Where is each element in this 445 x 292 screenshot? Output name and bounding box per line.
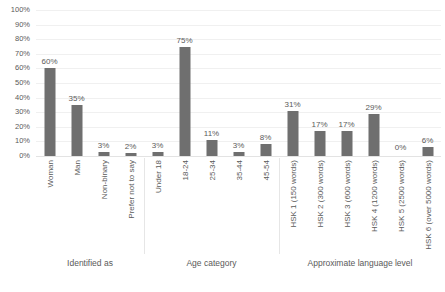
gridline [36, 156, 441, 157]
x-axis-tick-label: Woman [45, 160, 54, 187]
y-axis-tick-label: 40% [15, 94, 30, 102]
y-axis: 0%10%20%30%40%50%60%70%80%90%100% [0, 0, 34, 160]
x-axis-label-slot: 35-44 [226, 158, 252, 250]
group-title: Approximate language level [279, 258, 441, 269]
plot-area: 60%35%3%2%3%75%11%3%8%31%17%17%29%0%6% [36, 10, 441, 156]
bar[interactable] [71, 105, 82, 156]
y-axis-tick-label: 70% [15, 50, 30, 58]
x-axis-label-slot: HSK 6 (over 5000 words) [415, 158, 441, 250]
x-axis-tick-label: 45-54 [261, 160, 270, 180]
group-separator [144, 158, 145, 254]
x-axis-label-slot: HSK 2 (300 words) [307, 158, 333, 250]
x-axis-label-slot: HSK 4 (1200 words) [361, 158, 387, 250]
bar-slot[interactable]: 0% [388, 10, 414, 156]
y-axis-tick-label: 0% [19, 152, 30, 160]
x-axis-labels: WomanManNon-binaryPrefer not to sayUnder… [36, 158, 441, 250]
bar-slot[interactable]: 3% [145, 10, 171, 156]
y-axis-tick-label: 30% [15, 108, 30, 116]
bar-value-label: 17% [338, 120, 354, 129]
bar[interactable] [287, 111, 298, 156]
bar[interactable] [314, 131, 325, 156]
x-axis-tick-label: 35-44 [234, 160, 243, 180]
x-axis-tick-label: HSK 5 (2500 words) [396, 160, 405, 232]
bar-value-label: 75% [176, 36, 192, 45]
bar-slot[interactable]: 2% [118, 10, 144, 156]
bar-value-label: 3% [233, 141, 245, 150]
y-axis-tick-label: 90% [15, 21, 30, 29]
x-axis-label-slot: Man [64, 158, 90, 250]
x-axis-tick-label: Prefer not to say [126, 160, 135, 219]
x-axis-label-slot: 18-24 [172, 158, 198, 250]
bar-slot[interactable]: 11% [199, 10, 225, 156]
x-axis-tick-label: HSK 1 (150 words) [288, 160, 297, 228]
x-axis-label-slot: HSK 5 (2500 words) [388, 158, 414, 250]
y-axis-tick-label: 100% [11, 6, 30, 14]
bar[interactable] [125, 153, 136, 156]
bar[interactable] [98, 152, 109, 156]
bar[interactable] [206, 140, 217, 156]
bar-value-label: 29% [365, 103, 381, 112]
x-axis-tick-label: 18-24 [180, 160, 189, 180]
bar-value-label: 35% [68, 94, 84, 103]
group-title: Identified as [36, 258, 144, 269]
bar-slot[interactable]: 17% [334, 10, 360, 156]
bar-value-label: 3% [98, 141, 110, 150]
bar-value-label: 11% [204, 129, 219, 138]
bar-slot[interactable]: 17% [307, 10, 333, 156]
bar-value-label: 17% [311, 120, 327, 129]
x-axis-label-slot: HSK 1 (150 words) [280, 158, 306, 250]
bar-chart: 0%10%20%30%40%50%60%70%80%90%100% 60%35%… [0, 0, 445, 292]
x-axis-tick-label: HSK 3 (600 words) [342, 160, 351, 228]
y-axis-tick-label: 10% [15, 137, 30, 145]
bar[interactable] [179, 47, 190, 157]
y-axis-tick-label: 80% [15, 35, 30, 43]
bar[interactable] [341, 131, 352, 156]
x-axis-tick-label: HSK 2 (300 words) [315, 160, 324, 228]
x-axis-tick-label: HSK 4 (1200 words) [369, 160, 378, 232]
bar-slot[interactable]: 6% [415, 10, 441, 156]
bar[interactable] [152, 152, 163, 156]
x-axis-label-slot: Under 18 [145, 158, 171, 250]
x-axis-tick-label: HSK 6 (over 5000 words) [423, 160, 432, 250]
bar-value-label: 60% [41, 57, 57, 66]
bar-slot[interactable]: 3% [226, 10, 252, 156]
bar[interactable] [422, 147, 433, 156]
y-axis-tick-label: 50% [15, 79, 30, 87]
x-axis-label-slot: Woman [37, 158, 63, 250]
x-axis-label-slot: Prefer not to say [118, 158, 144, 250]
y-axis-tick-label: 20% [15, 123, 30, 131]
bar-value-label: 31% [284, 100, 300, 109]
bar-slot[interactable]: 60% [37, 10, 63, 156]
bar-slot[interactable]: 75% [172, 10, 198, 156]
bar-value-label: 3% [152, 141, 164, 150]
x-axis-label-slot: Non-binary [91, 158, 117, 250]
x-axis-tick-label: Man [72, 160, 81, 176]
bar[interactable] [44, 68, 55, 156]
x-axis-label-slot: 45-54 [253, 158, 279, 250]
bar-value-label: 6% [422, 136, 434, 145]
bar-value-label: 8% [260, 133, 272, 142]
group-separator [279, 158, 280, 254]
bar-value-label: 0% [395, 143, 407, 152]
bar-slot[interactable]: 31% [280, 10, 306, 156]
x-axis-label-slot: HSK 3 (600 words) [334, 158, 360, 250]
bar[interactable] [368, 114, 379, 156]
bar[interactable] [260, 144, 271, 156]
x-axis-tick-label: Under 18 [153, 160, 162, 193]
group-title: Age category [144, 258, 279, 269]
bar-slot[interactable]: 8% [253, 10, 279, 156]
group-titles: Identified asAge categoryApproximate lan… [36, 258, 441, 278]
x-axis-label-slot: 25-34 [199, 158, 225, 250]
bar-slot[interactable]: 35% [64, 10, 90, 156]
bar[interactable] [233, 152, 244, 156]
bar-value-label: 2% [125, 142, 137, 151]
x-axis-tick-label: 25-34 [207, 160, 216, 180]
bar-slot[interactable]: 29% [361, 10, 387, 156]
y-axis-tick-label: 60% [15, 64, 30, 72]
x-axis-tick-label: Non-binary [99, 160, 108, 199]
bar-slot[interactable]: 3% [91, 10, 117, 156]
